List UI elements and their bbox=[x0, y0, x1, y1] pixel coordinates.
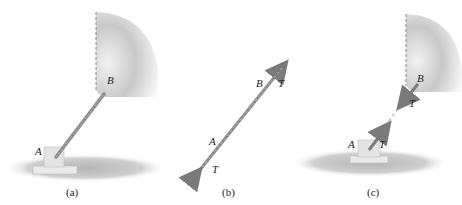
label-b: B bbox=[107, 74, 114, 86]
panel-b: B T A T (b) bbox=[160, 0, 300, 205]
caption-c: (c) bbox=[367, 186, 379, 198]
label-t-bracket: T bbox=[379, 138, 385, 150]
line-of-action bbox=[387, 109, 398, 123]
label-t-bottom: T bbox=[212, 163, 218, 175]
panel-c-drawing bbox=[290, 0, 462, 205]
label-b: B bbox=[256, 77, 263, 89]
label-a: A bbox=[348, 138, 355, 150]
caption-a: (a) bbox=[66, 186, 78, 198]
floor bbox=[3, 154, 160, 182]
label-b: B bbox=[417, 72, 424, 84]
label-t-top: T bbox=[278, 77, 284, 89]
label-a: A bbox=[209, 135, 216, 147]
label-t-wall: T bbox=[409, 97, 415, 109]
panel-b-drawing bbox=[160, 0, 300, 205]
label-a: A bbox=[35, 145, 42, 157]
panel-c: B T A T (c) bbox=[290, 0, 462, 205]
panel-a: B A (a) bbox=[0, 0, 160, 205]
panel-a-drawing bbox=[0, 0, 160, 205]
wall bbox=[406, 14, 462, 92]
caption-b: (b) bbox=[222, 186, 235, 198]
wall bbox=[96, 12, 158, 97]
